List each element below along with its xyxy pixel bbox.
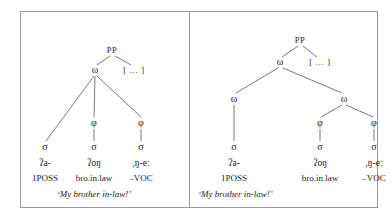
right-tree-panel: PP ω [ … ] ω ω φ φ σ σ σ ʔa- ʔoŋ ,ŋ-eː 1… <box>189 12 379 207</box>
left-pp-node: PP <box>107 46 117 55</box>
omega-to-phi-right <box>97 76 141 117</box>
left-phi-right-node: φ <box>138 118 144 128</box>
right-form-3: ,ŋ-eː <box>365 159 382 169</box>
pp-to-omega <box>97 56 110 65</box>
left-omega-top-node: ω <box>92 65 99 75</box>
left-form-2: ʔoŋ <box>87 159 101 169</box>
left-ellipsis-node: [ … ] <box>123 66 144 75</box>
right-omega-right-node: ω <box>341 94 348 104</box>
left-form-1: ʔa- <box>39 159 51 169</box>
left-gloss-1: 1POSS <box>32 174 58 183</box>
left-sigma-left-node: σ <box>42 142 48 152</box>
omega-to-sigma-left <box>46 76 94 141</box>
right-pp-node: PP <box>295 36 305 45</box>
pp-to-ellipsis <box>115 56 131 65</box>
right-gloss-2: bro.in.law <box>302 174 339 183</box>
left-form-3: ,ŋ-eː <box>132 159 149 169</box>
right-translation: ‘My brother in-law!’ <box>198 190 273 199</box>
right-sigma-left-node: σ <box>231 142 237 152</box>
right-sigma-right-node: σ <box>371 142 377 152</box>
pp-to-omega <box>282 46 298 57</box>
left-gloss-2: bro.in.law <box>76 174 113 183</box>
right-form-1: ʔa- <box>228 159 240 169</box>
right-gloss-1: 1POSS <box>221 174 247 183</box>
left-tree-panel: PP ω [ … ] φ φ σ σ σ ʔa- ʔoŋ ,ŋ-eː 1POSS… <box>21 12 189 207</box>
pp-to-ellipsis <box>303 46 317 57</box>
omega-right-to-phi-right <box>346 105 373 117</box>
left-gloss-3: –VOC <box>129 174 153 183</box>
omega-to-omega-left <box>236 68 278 93</box>
omega-to-omega-right <box>283 68 342 93</box>
left-sigma-mid-node: σ <box>91 142 97 152</box>
right-form-2: ʔoŋ <box>313 159 327 169</box>
left-phi-mid-node: φ <box>91 118 97 128</box>
omega-to-phi-mid <box>94 76 95 117</box>
figure-frame: PP ω [ … ] φ φ σ σ σ ʔa- ʔoŋ ,ŋ-eː 1POSS… <box>20 11 378 208</box>
omega-right-to-phi-left <box>321 105 342 117</box>
left-translation: ‘My brother in-law!’ <box>57 190 132 199</box>
right-tree-edges <box>190 12 380 209</box>
right-phi-right-node: φ <box>371 118 377 128</box>
right-ellipsis-node: [ … ] <box>309 58 330 67</box>
right-omega-left-node: ω <box>231 94 238 104</box>
right-gloss-3: –VOC <box>362 174 386 183</box>
right-sigma-mid-node: σ <box>317 142 323 152</box>
right-omega-top-node: ω <box>277 57 284 67</box>
left-sigma-right-node: σ <box>138 142 144 152</box>
right-phi-left-node: φ <box>317 118 323 128</box>
